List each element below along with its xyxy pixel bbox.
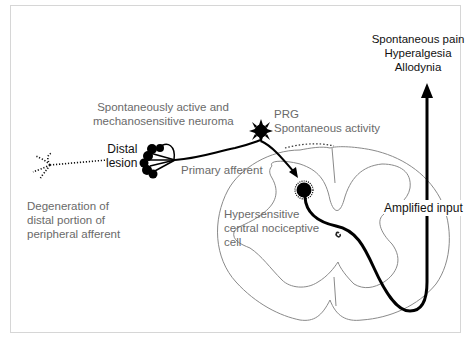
amplified-input-label: Amplified input (384, 200, 463, 216)
distal-lesion-label: Distal lesion (106, 142, 137, 171)
neuroma-label: Spontaneously active and mechanosensitiv… (93, 101, 233, 129)
primary-afferent-label: Primary afferent (181, 164, 263, 178)
central-canal (336, 232, 340, 236)
ventral-fissure (334, 277, 336, 306)
central-branch-fiber (261, 141, 294, 172)
primary-afferent-fiber (175, 140, 261, 160)
ascending-arrowhead (421, 83, 433, 98)
degeneration-label: Degeneration of distal portion of periph… (27, 200, 120, 241)
prg-label: PRG (274, 108, 299, 122)
degenerated-afferent (33, 153, 107, 179)
dorsal-septum (332, 148, 335, 183)
outcomes-label: Spontaneous pain Hyperalgesia Allodynia (370, 33, 466, 74)
nociceptive-cell-icon (295, 181, 313, 199)
hypersensitive-cell-label: Hypersensitive central nociceptive cell (224, 208, 319, 249)
spontaneous-activity-label: Spontaneous activity (274, 122, 380, 136)
neuroma-icon (140, 144, 165, 179)
